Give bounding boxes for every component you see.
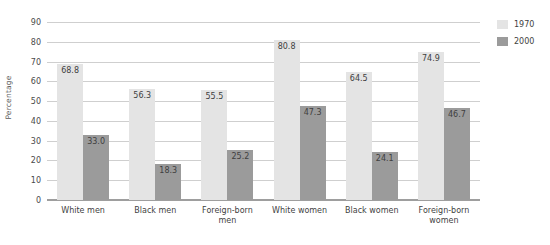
bar[interactable]: 24.1 — [372, 152, 398, 200]
x-axis-tick-label: Black women — [336, 203, 408, 243]
bar[interactable]: 46.7 — [444, 108, 470, 200]
bar[interactable]: 80.8 — [274, 40, 300, 200]
y-axis-tick-label: 60 — [31, 77, 41, 86]
bar-group: 74.946.7 — [408, 22, 480, 200]
bar-value-label: 68.8 — [61, 66, 79, 75]
bar[interactable]: 47.3 — [300, 106, 326, 200]
bar-chart: Percentage 0102030405060708090 68.833.05… — [0, 0, 550, 245]
bar-pair: 64.524.1 — [336, 22, 408, 200]
bar[interactable]: 56.3 — [129, 89, 155, 200]
bar-value-label: 18.3 — [159, 166, 177, 175]
bar-group: 64.524.1 — [336, 22, 408, 200]
bar-value-label: 33.0 — [87, 137, 105, 146]
bar-pair: 74.946.7 — [408, 22, 480, 200]
x-axis-tick-label: White women — [264, 203, 336, 243]
bar-pair: 68.833.0 — [47, 22, 119, 200]
y-axis-title-text: Percentage — [4, 75, 13, 119]
bar[interactable]: 55.5 — [201, 90, 227, 200]
bar-value-label: 56.3 — [133, 91, 151, 100]
bar-value-label: 55.5 — [206, 92, 224, 101]
bar-group: 55.525.2 — [191, 22, 263, 200]
legend-swatch — [497, 37, 508, 46]
bar-pair: 80.847.3 — [264, 22, 336, 200]
legend-item[interactable]: 1970 — [497, 18, 534, 31]
bar-value-label: 74.9 — [422, 54, 440, 63]
bar[interactable]: 25.2 — [227, 150, 253, 200]
x-axis-tick-label: Foreign-bornwomen — [408, 203, 480, 243]
bar[interactable]: 64.5 — [346, 72, 372, 200]
bar-value-label: 46.7 — [448, 110, 466, 119]
y-axis-tick-label: 20 — [31, 156, 41, 165]
bar[interactable]: 33.0 — [83, 135, 109, 200]
x-axis-tick-label: Black men — [119, 203, 191, 243]
x-axis-tick-label: White men — [47, 203, 119, 243]
legend-item[interactable]: 2000 — [497, 35, 534, 48]
bar-pair: 55.525.2 — [191, 22, 263, 200]
bar-pair: 56.318.3 — [119, 22, 191, 200]
bar-group: 80.847.3 — [264, 22, 336, 200]
y-axis-tick-label: 30 — [31, 136, 41, 145]
bar-value-label: 24.1 — [376, 154, 394, 163]
chart-legend: 19702000 — [497, 18, 534, 52]
y-axis-tick-label: 50 — [31, 97, 41, 106]
legend-swatch — [497, 20, 508, 29]
bar-group: 68.833.0 — [47, 22, 119, 200]
bar[interactable]: 18.3 — [155, 164, 181, 200]
x-axis-labels: White menBlack menForeign-bornmenWhite w… — [47, 203, 480, 243]
bar-value-label: 64.5 — [350, 74, 368, 83]
x-axis-tick-label: Foreign-bornmen — [191, 203, 263, 243]
y-axis-tick-label: 10 — [31, 176, 41, 185]
bar-groups: 68.833.056.318.355.525.280.847.364.524.1… — [47, 22, 480, 200]
y-axis-tick-label: 90 — [31, 18, 41, 27]
bar-value-label: 25.2 — [232, 152, 250, 161]
legend-label: 1970 — [514, 20, 534, 29]
bar-value-label: 80.8 — [278, 42, 296, 51]
y-axis-tick-label: 80 — [31, 37, 41, 46]
y-axis-tick-label: 70 — [31, 57, 41, 66]
y-axis-tick-label: 40 — [31, 116, 41, 125]
bar[interactable]: 74.9 — [418, 52, 444, 200]
gridline — [47, 200, 480, 201]
plot-area: 0102030405060708090 68.833.056.318.355.5… — [47, 22, 480, 200]
legend-label: 2000 — [514, 37, 534, 46]
bar[interactable]: 68.8 — [57, 64, 83, 200]
y-axis-title: Percentage — [0, 0, 16, 195]
bar-value-label: 47.3 — [304, 108, 322, 117]
y-axis-tick-label: 0 — [36, 196, 41, 205]
bar-group: 56.318.3 — [119, 22, 191, 200]
